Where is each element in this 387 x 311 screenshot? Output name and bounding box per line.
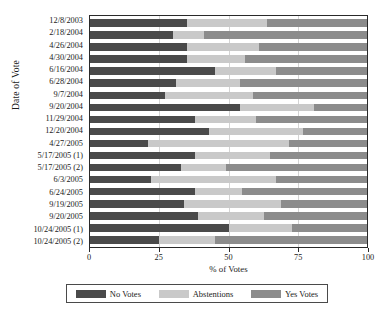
bar-row [90,41,367,53]
y-axis-tick-label: 10/24/2005 (2) [12,236,86,248]
y-axis-tick-label: 10/24/2005 (1) [12,224,86,236]
stacked-bar [90,128,367,136]
bar-segment-yes-votes [270,152,367,160]
bar-segment-no-votes [90,152,195,160]
bar-segment-yes-votes [240,79,367,87]
x-axis-tick [298,248,299,252]
bar-row [90,222,367,234]
bar-row [90,174,367,186]
y-axis-tick-label: 9/19/2005 [12,199,86,211]
bar-segment-abstentions [198,212,264,220]
bar-segment-no-votes [90,200,184,208]
stacked-bar [90,55,367,63]
bar-row [90,186,367,198]
legend-label: No Votes [110,289,141,299]
bar-segment-yes-votes [289,140,367,148]
bar-segment-abstentions [195,116,256,124]
bar-segment-no-votes [90,188,195,196]
bar-segment-abstentions [184,200,281,208]
bar-segment-yes-votes [226,164,367,172]
bar-segment-abstentions [187,19,267,27]
y-axis-tick-label: 9/20/2005 [12,211,86,223]
stacked-bar [90,200,367,208]
bar-row [90,198,367,210]
bar-segment-yes-votes [245,55,367,63]
bar-row [90,125,367,137]
bar-segment-no-votes [90,67,215,75]
stacked-bar [90,212,367,220]
chart-legend: No VotesAbstentionsYes Votes [66,284,328,303]
stacked-bar [90,140,367,148]
bar-row [90,101,367,113]
bar-segment-yes-votes [256,116,367,124]
y-axis-tick-labels: 12/8/20032/18/20044/26/20044/30/20046/16… [12,15,86,248]
x-axis-tick-label: 25 [155,253,163,262]
y-axis-tick-label: 9/20/2004 [12,101,86,113]
bar-segment-abstentions [165,92,254,100]
bar-segment-yes-votes [264,212,366,220]
bar-row [90,150,367,162]
bar-segment-no-votes [90,19,187,27]
bar-segment-yes-votes [215,236,367,244]
legend-swatch-no-votes [76,290,106,298]
bar-segment-no-votes [90,79,176,87]
y-axis-tick-label: 6/16/2004 [12,64,86,76]
bar-segment-abstentions [195,188,242,196]
bar-segment-no-votes [90,43,187,51]
bar-series-container [90,16,367,247]
x-axis-tick [368,248,369,252]
bar-segment-no-votes [90,164,181,172]
bar-segment-yes-votes [281,200,367,208]
stacked-bar [90,224,367,232]
bar-segment-yes-votes [276,176,367,184]
bar-row [90,17,367,29]
bar-segment-no-votes [90,224,229,232]
bar-segment-abstentions [181,164,225,172]
bar-segment-abstentions [209,128,303,136]
bar-segment-yes-votes [276,67,367,75]
y-axis-tick-label: 11/29/2004 [12,113,86,125]
bar-row [90,113,367,125]
stacked-bar-chart: Date of Vote 12/8/20032/18/20044/26/2004… [0,0,387,311]
bar-segment-no-votes [90,212,198,220]
y-axis-tick-label: 4/26/2004 [12,40,86,52]
bar-row [90,210,367,222]
bar-segment-yes-votes [292,224,367,232]
x-axis-tick [89,248,90,252]
legend-item: No Votes [76,289,141,299]
stacked-bar [90,43,367,51]
bar-segment-yes-votes [253,92,367,100]
y-axis-tick-label: 5/17/2005 (2) [12,162,86,174]
bar-segment-abstentions [151,176,276,184]
bar-segment-abstentions [240,104,315,112]
y-axis-tick-label: 5/17/2005 (1) [12,150,86,162]
legend-swatch-yes-votes [251,290,281,298]
stacked-bar [90,116,367,124]
x-axis-tick-label: 100 [362,253,374,262]
x-axis-title: % of Votes [89,264,368,274]
bar-segment-abstentions [148,140,289,148]
stacked-bar [90,104,367,112]
stacked-bar [90,164,367,172]
bar-segment-no-votes [90,128,209,136]
bar-segment-yes-votes [267,19,367,27]
stacked-bar [90,188,367,196]
y-axis-tick-label: 4/30/2004 [12,52,86,64]
bar-segment-no-votes [90,116,195,124]
bar-row [90,162,367,174]
bar-row [90,137,367,149]
x-axis-tick-label: 50 [224,253,232,262]
bar-segment-no-votes [90,31,173,39]
bar-segment-no-votes [90,176,151,184]
legend-label: Yes Votes [285,289,318,299]
y-axis-tick-label: 2/18/2004 [12,27,86,39]
bar-row [90,65,367,77]
bar-segment-no-votes [90,55,187,63]
bar-segment-abstentions [215,67,276,75]
stacked-bar [90,67,367,75]
bar-row [90,29,367,41]
bar-segment-abstentions [229,224,293,232]
stacked-bar [90,176,367,184]
x-axis-tick-label: 0 [87,253,91,262]
bar-segment-yes-votes [303,128,367,136]
